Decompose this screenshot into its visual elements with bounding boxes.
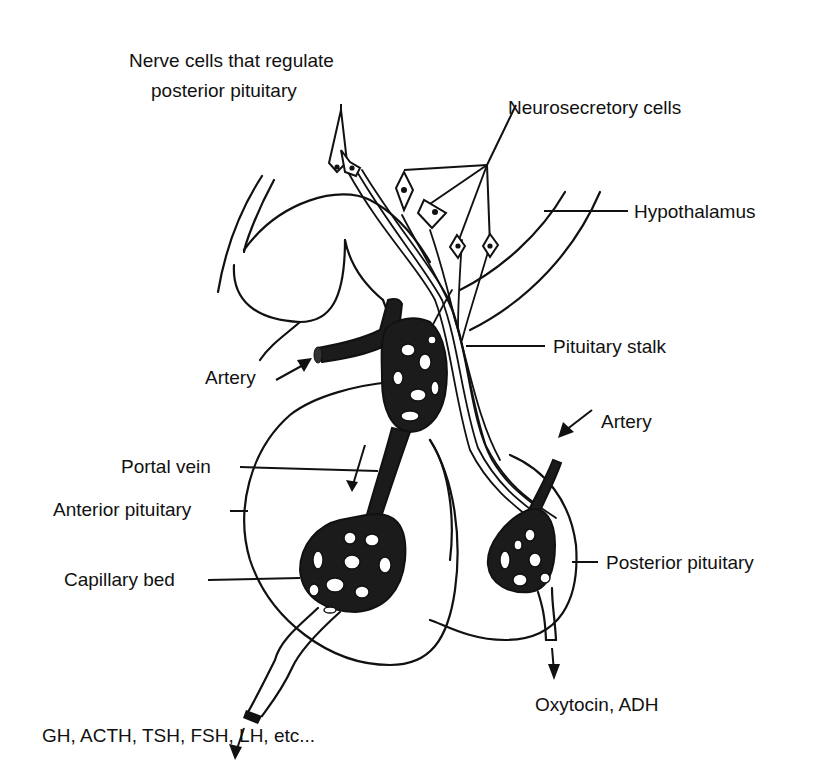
label-anterior-hormones: GH, ACTH, TSH, FSH, LH, etc...: [42, 725, 315, 746]
nerve-cells-posterior: [329, 104, 360, 176]
label-nerve-cells-line2: posterior pituitary: [151, 80, 297, 101]
label-artery-left: Artery: [205, 367, 256, 388]
label-posterior-hormones: Oxytocin, ADH: [535, 694, 659, 715]
label-hypothalamus: Hypothalamus: [634, 201, 755, 222]
label-posterior-pituitary: Posterior pituitary: [606, 552, 754, 573]
label-artery-right: Artery: [601, 411, 652, 432]
neurosecretory-cells: [396, 105, 516, 258]
pituitary-diagram: Nerve cells that regulate posterior pitu…: [0, 0, 839, 775]
label-nerve-cells-line1: Nerve cells that regulate: [129, 50, 334, 71]
label-anterior-pituitary: Anterior pituitary: [53, 499, 192, 520]
posterior-vascular-system: [488, 460, 561, 640]
label-pituitary-stalk: Pituitary stalk: [553, 336, 666, 357]
label-portal-vein: Portal vein: [121, 456, 211, 477]
label-capillary-bed: Capillary bed: [64, 569, 175, 590]
label-neurosecretory-cells: Neurosecretory cells: [508, 97, 681, 118]
diagram-canvas: Nerve cells that regulate posterior pitu…: [0, 0, 839, 775]
